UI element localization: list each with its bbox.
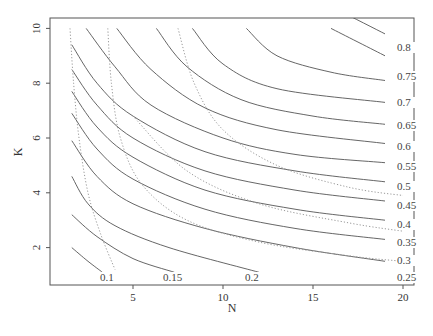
contour-label: 0.65 — [397, 119, 417, 131]
contour-label: 0.75 — [397, 70, 417, 82]
contour-line-0-5 — [86, 28, 385, 162]
contour-line-0-65 — [192, 28, 385, 102]
plot-frame — [50, 18, 414, 285]
dotted-contour-2 — [108, 28, 403, 261]
contour-line-0-6 — [156, 28, 385, 124]
y-tick-label: 6 — [30, 135, 42, 141]
contour-label: 0.15 — [163, 271, 183, 283]
y-axis: 246810 — [30, 22, 50, 250]
contour-label: 0.7 — [397, 96, 411, 108]
contour-line-0-7 — [246, 28, 385, 80]
contour-label: 0.25 — [397, 271, 417, 283]
contour-line-0-75 — [331, 28, 385, 55]
contour-line-0-15 — [72, 215, 175, 273]
y-tick-label: 4 — [30, 190, 42, 196]
contour-line-0-4 — [72, 70, 385, 202]
contour-line-0-35 — [72, 91, 385, 220]
contour-label: 0.45 — [397, 199, 417, 211]
y-tick-label: 10 — [30, 22, 42, 34]
x-tick-label: 5 — [130, 291, 136, 303]
x-axis-title: N — [228, 301, 237, 315]
y-tick-label: 2 — [30, 245, 42, 251]
contour-label: 0.55 — [397, 160, 417, 172]
contour-label: 0.3 — [397, 254, 411, 266]
contour-label: 0.1 — [100, 271, 114, 283]
contour-label: 0.4 — [397, 218, 411, 230]
dotted-contour-4 — [133, 116, 403, 231]
x-axis: 5101520 — [130, 285, 409, 303]
contour-label: 0.8 — [397, 41, 411, 53]
x-tick-label: 20 — [398, 291, 410, 303]
contour-line-0-55 — [117, 28, 385, 143]
contour-line-0-45 — [72, 45, 385, 182]
contour-line-0-2 — [72, 176, 259, 272]
contour-label: 0.6 — [397, 140, 411, 152]
y-tick-label: 8 — [30, 80, 42, 86]
contour-label: 0.35 — [397, 236, 417, 248]
contour-label: 0.5 — [397, 180, 411, 192]
solid-contour-lines — [72, 12, 385, 272]
contour-label: 0.2 — [245, 271, 259, 283]
contour-line-0-8 — [342, 12, 385, 34]
x-tick-label: 15 — [308, 291, 320, 303]
y-axis-title: K — [11, 147, 25, 156]
contour-chart: 0.10.150.20.250.30.350.40.450.50.550.60.… — [0, 0, 433, 336]
contour-line-0-1 — [72, 248, 103, 273]
